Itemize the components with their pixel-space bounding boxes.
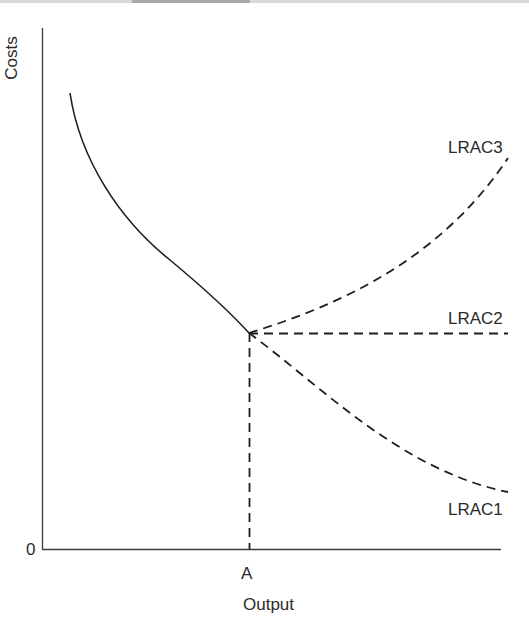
lrac1-label: LRAC1	[448, 501, 503, 518]
lrac1-curve	[249, 333, 508, 492]
lrac3-label: LRAC3	[448, 139, 503, 156]
x-axis-label: Output	[243, 596, 294, 613]
lrac3-curve	[249, 158, 508, 333]
a-tick-label: A	[241, 565, 252, 582]
lrac2-label: LRAC2	[448, 310, 503, 327]
origin-label: 0	[26, 541, 35, 558]
lrac-solid-curve	[70, 93, 249, 333]
y-axis-label-text: Costs	[2, 36, 22, 79]
y-axis-label: Costs	[0, 28, 24, 88]
